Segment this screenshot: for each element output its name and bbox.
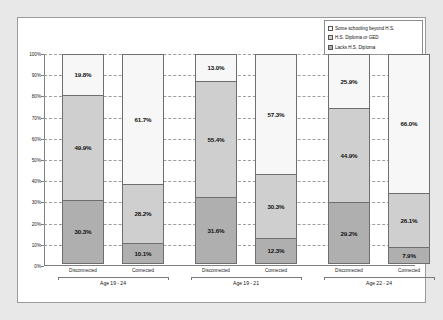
x-axis-group-label: Age 19 - 21 bbox=[233, 280, 259, 286]
stacked-bar[interactable]: 25.9%44.9%29.2% bbox=[328, 54, 370, 266]
bar-segment[interactable]: 26.1% bbox=[388, 193, 430, 248]
y-axis-tick-label: 10% bbox=[32, 242, 41, 247]
x-axis-labels: DisconnectedConnectedDisconnectedConnect… bbox=[44, 268, 415, 308]
bar-segment-value-label: 61.7% bbox=[134, 116, 151, 123]
bar-segment[interactable]: 7.9% bbox=[388, 247, 430, 264]
stacked-bar[interactable]: 19.8%49.9%30.3% bbox=[62, 54, 104, 266]
y-axis-tick-label: 50% bbox=[32, 158, 41, 163]
bar-segment[interactable]: 10.1% bbox=[122, 243, 164, 264]
x-axis-category-label: Disconnected bbox=[69, 268, 97, 273]
group-rule-tick bbox=[191, 277, 192, 280]
x-axis-category-label: Connected bbox=[398, 268, 420, 273]
y-axis-tick-mark bbox=[41, 181, 44, 182]
y-axis-tick-label: 30% bbox=[32, 200, 41, 205]
bar-segment-value-label: 7.9% bbox=[402, 252, 416, 259]
y-axis-tick-mark bbox=[41, 266, 44, 267]
legend-item-label: Some schooling beyond H.S. bbox=[335, 24, 394, 33]
bar-segment-value-label: 66.0% bbox=[400, 120, 417, 127]
group-rule-tick bbox=[301, 277, 302, 280]
bar-segment-value-label: 44.9% bbox=[340, 152, 357, 159]
y-axis-tick-label: 70% bbox=[32, 115, 41, 120]
y-axis-tick-mark bbox=[41, 96, 44, 97]
bar-segment-value-label: 12.3% bbox=[267, 247, 284, 254]
bar-segment-value-label: 28.2% bbox=[134, 210, 151, 217]
group-rule-tick bbox=[324, 277, 325, 280]
bar-segment-value-label: 13.0% bbox=[207, 64, 224, 71]
y-axis-tick-mark bbox=[41, 224, 44, 225]
y-axis-tick-label: 40% bbox=[32, 179, 41, 184]
bar-segment-value-label: 55.4% bbox=[207, 136, 224, 143]
chart-page: Some schooling beyond H.S.H.S. Diploma o… bbox=[0, 0, 443, 320]
y-axis-tick-label: 20% bbox=[32, 221, 41, 226]
bar-segment-value-label: 29.2% bbox=[340, 230, 357, 237]
y-axis-tick-mark bbox=[41, 54, 44, 55]
bar-segment-value-label: 26.1% bbox=[400, 217, 417, 224]
plot-area: 0%10%20%30%40%50%60%70%80%90%100%19.8%49… bbox=[44, 54, 415, 266]
bar-segment[interactable]: 31.6% bbox=[195, 197, 237, 264]
y-axis-tick-mark bbox=[41, 139, 44, 140]
group-rule bbox=[191, 277, 301, 278]
legend-item-label: Lacks H.S. Diploma bbox=[335, 43, 375, 52]
legend-swatch-icon bbox=[328, 45, 333, 50]
legend-item[interactable]: H.S. Diploma or GED bbox=[328, 33, 419, 42]
bar-segment[interactable]: 30.3% bbox=[62, 200, 104, 264]
bar-segment-value-label: 31.6% bbox=[207, 227, 224, 234]
stacked-bar[interactable]: 57.3%30.3%12.3% bbox=[255, 54, 297, 266]
group-rule-tick bbox=[168, 277, 169, 280]
x-axis-category-label: Disconnected bbox=[202, 268, 230, 273]
stacked-bar[interactable]: 13.0%55.4%31.6% bbox=[195, 54, 237, 266]
x-axis-group-label: Age 19 - 24 bbox=[100, 280, 126, 286]
bar-segment[interactable]: 19.8% bbox=[62, 54, 104, 96]
bar-segment[interactable]: 61.7% bbox=[122, 54, 164, 185]
bar-segment-value-label: 30.3% bbox=[74, 228, 91, 235]
bar-segment-value-label: 10.1% bbox=[134, 250, 151, 257]
bar-segment[interactable]: 25.9% bbox=[328, 54, 370, 109]
bar-segment-value-label: 49.9% bbox=[74, 144, 91, 151]
bar-segment[interactable]: 49.9% bbox=[62, 95, 104, 201]
y-axis-tick-mark bbox=[41, 202, 44, 203]
group-rule bbox=[324, 277, 434, 278]
bar-segment[interactable]: 12.3% bbox=[255, 238, 297, 264]
bar-segment[interactable]: 55.4% bbox=[195, 81, 237, 198]
bar-segment[interactable]: 66.0% bbox=[388, 54, 430, 194]
group-rule-tick bbox=[434, 277, 435, 280]
y-axis-tick-mark bbox=[41, 160, 44, 161]
x-axis-group-label: Age 22 - 24 bbox=[366, 280, 392, 286]
y-axis-tick-label: 60% bbox=[32, 136, 41, 141]
chart-legend: Some schooling beyond H.S.H.S. Diploma o… bbox=[324, 20, 423, 55]
bar-segment[interactable]: 13.0% bbox=[195, 54, 237, 82]
legend-item-label: H.S. Diploma or GED bbox=[335, 33, 379, 42]
bar-segment[interactable]: 44.9% bbox=[328, 108, 370, 203]
bar-segment[interactable]: 29.2% bbox=[328, 202, 370, 264]
legend-item[interactable]: Lacks H.S. Diploma bbox=[328, 43, 419, 52]
y-axis-tick-mark bbox=[41, 118, 44, 119]
y-axis-tick-mark bbox=[41, 75, 44, 76]
chart-frame: Some schooling beyond H.S.H.S. Diploma o… bbox=[17, 17, 426, 303]
bar-segment[interactable]: 30.3% bbox=[255, 174, 297, 238]
legend-swatch-icon bbox=[328, 26, 333, 31]
stacked-bar[interactable]: 61.7%28.2%10.1% bbox=[122, 54, 164, 266]
y-axis-tick-label: 0% bbox=[34, 264, 41, 269]
plot-inner: 0%10%20%30%40%50%60%70%80%90%100%19.8%49… bbox=[44, 54, 415, 266]
y-axis-tick-mark bbox=[41, 245, 44, 246]
stacked-bar[interactable]: 66.0%26.1%7.9% bbox=[388, 54, 430, 266]
y-axis-tick-label: 80% bbox=[32, 94, 41, 99]
bar-segment-value-label: 19.8% bbox=[74, 71, 91, 78]
x-axis-category-label: Connected bbox=[132, 268, 154, 273]
group-rule bbox=[58, 277, 168, 278]
y-axis-tick-label: 100% bbox=[29, 52, 41, 57]
bar-segment-value-label: 25.9% bbox=[340, 78, 357, 85]
x-axis-category-label: Connected bbox=[265, 268, 287, 273]
legend-item[interactable]: Some schooling beyond H.S. bbox=[328, 24, 419, 33]
y-axis-tick-label: 90% bbox=[32, 73, 41, 78]
legend-swatch-icon bbox=[328, 35, 333, 40]
bar-segment-value-label: 57.3% bbox=[267, 111, 284, 118]
x-axis-category-label: Disconnected bbox=[335, 268, 363, 273]
group-rule-tick bbox=[58, 277, 59, 280]
bar-segment[interactable]: 28.2% bbox=[122, 184, 164, 244]
bar-segment-value-label: 30.3% bbox=[267, 203, 284, 210]
bar-segment[interactable]: 57.3% bbox=[255, 54, 297, 175]
